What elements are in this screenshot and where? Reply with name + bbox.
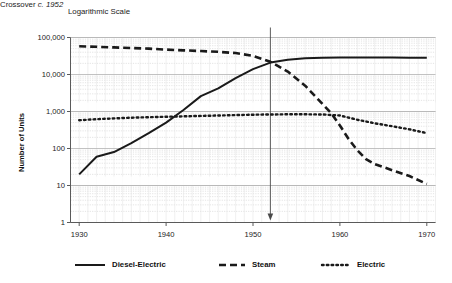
legend-label-steam: Steam	[252, 260, 275, 269]
legend-label-electric: Electric	[357, 260, 385, 269]
x-tick-label: 1970	[407, 230, 447, 239]
x-tick-label: 1930	[59, 230, 99, 239]
legend-label-diesel-electric: Diesel-Electric	[112, 260, 166, 269]
y-tick-label: 10,000	[20, 70, 65, 79]
y-tick-label: 100	[20, 144, 65, 153]
chart-canvas: Logarithmic Scale Number of Units Crosso…	[0, 0, 452, 283]
y-tick-label: 100,000	[20, 33, 65, 42]
chart-title: Logarithmic Scale	[68, 7, 130, 16]
y-tick-label: 1	[20, 218, 65, 227]
x-tick-label: 1950	[233, 230, 273, 239]
x-tick-label: 1940	[146, 230, 186, 239]
y-axis-title: Number of Units	[17, 113, 26, 172]
chart-figure: Logarithmic Scale Number of Units Crosso…	[0, 0, 452, 283]
x-tick-label: 1960	[320, 230, 360, 239]
y-tick-label: 10	[20, 181, 65, 190]
y-tick-label: 1,000	[20, 107, 65, 116]
chart-svg	[0, 0, 452, 283]
